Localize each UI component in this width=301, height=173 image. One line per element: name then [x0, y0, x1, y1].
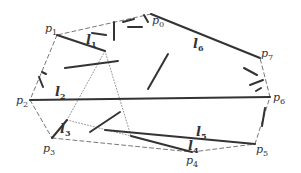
dotted-edge: [67, 120, 131, 136]
point-label-p7: p7: [261, 47, 273, 62]
segment-l6: [151, 14, 260, 58]
segment: [90, 112, 120, 132]
segment-label-l6: l6: [193, 36, 204, 53]
segment-l4: [131, 136, 192, 152]
segment-label-l5: l5: [196, 124, 207, 141]
point-label-p0: p0: [152, 14, 164, 29]
unlabeled-segments: [39, 15, 265, 132]
hull-edge: [260, 58, 270, 97]
point-label-p2: p2: [16, 94, 28, 109]
segment-label-l1: l1: [86, 32, 97, 49]
point-label-p5: p5: [256, 143, 268, 158]
point-label-p6: p6: [273, 91, 285, 106]
point-label-p4: p4: [186, 154, 198, 169]
point-label-p3: p3: [43, 142, 55, 157]
hull-edge: [57, 14, 151, 35]
segment: [148, 54, 168, 89]
segment-label-l3: l3: [60, 121, 71, 138]
segment: [144, 15, 148, 22]
segment-label-l4: l4: [188, 138, 199, 155]
segment: [262, 108, 265, 126]
segment-label-l2: l2: [55, 84, 66, 101]
hull-edge: [52, 138, 192, 152]
hull-edge: [30, 35, 57, 100]
segment: [42, 72, 46, 74]
segment: [92, 33, 106, 35]
segment: [256, 88, 261, 91]
point-label-p1: p1: [45, 22, 57, 37]
segment-hull-diagram: p0p1p2p3p4p5p6p7 l1l2l3l4l5l6: [0, 0, 301, 173]
segment: [65, 61, 118, 68]
hull-edge: [30, 100, 52, 138]
segment: [244, 68, 257, 75]
segment: [39, 77, 43, 87]
segment-l1: [57, 35, 105, 51]
segment-l5: [105, 130, 255, 144]
segment: [250, 80, 263, 85]
dotted-edge: [105, 51, 131, 136]
hull-edge: [192, 144, 255, 152]
segment-l2: [30, 97, 270, 100]
dotted-edge: [67, 51, 105, 120]
